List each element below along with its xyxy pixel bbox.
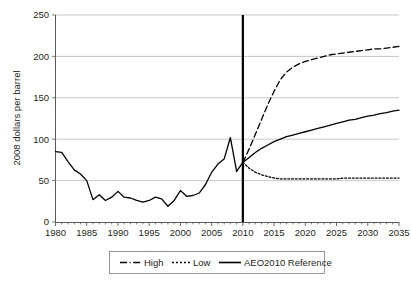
- chart-background: [0, 0, 411, 282]
- x-tick-label-2015: 2015: [264, 227, 285, 238]
- y-tick-label-150: 150: [33, 92, 49, 103]
- x-tick-label-2035: 2035: [388, 227, 409, 238]
- y-tick-label-250: 250: [33, 9, 49, 20]
- x-tick-label-1990: 1990: [107, 227, 128, 238]
- x-tick-label-1980: 1980: [45, 227, 66, 238]
- y-axis-title-text: 2008 dollars per barrel: [11, 70, 22, 165]
- x-tick-label-2000: 2000: [170, 227, 191, 238]
- chart-legend: High Low AEO2010 Reference: [110, 252, 332, 274]
- y-tick-label-200: 200: [33, 51, 49, 62]
- x-tick-label-2005: 2005: [201, 227, 222, 238]
- y-tick-label-100: 100: [33, 134, 49, 145]
- legend-label-high: High: [144, 257, 164, 268]
- y-tick-label-50: 50: [38, 175, 49, 186]
- x-tick-label-2025: 2025: [326, 227, 347, 238]
- oil-price-projection-chart: 2008 dollars per barrel 050100150200250 …: [0, 0, 411, 282]
- y-axis-title: 2008 dollars per barrel: [11, 70, 22, 165]
- x-tick-label-2010: 2010: [232, 227, 253, 238]
- chart-figure: 2008 dollars per barrel 050100150200250 …: [0, 0, 411, 282]
- x-tick-label-2030: 2030: [357, 227, 378, 238]
- legend-label-low: Low: [193, 257, 211, 268]
- x-tick-label-1995: 1995: [139, 227, 160, 238]
- y-tick-label-0: 0: [44, 216, 49, 227]
- x-tick-label-1985: 1985: [76, 227, 97, 238]
- legend-label-aeo2010-reference: AEO2010 Reference: [244, 257, 332, 268]
- x-tick-label-2020: 2020: [295, 227, 316, 238]
